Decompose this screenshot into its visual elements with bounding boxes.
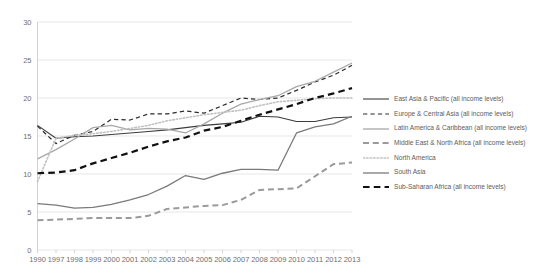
legend-item-6[interactable]: Sub-Saharan Africa (all income levels) — [363, 180, 545, 195]
x-axis-tick-label: 2006 — [214, 255, 231, 264]
legend-item-5[interactable]: South Asia — [363, 165, 545, 180]
x-axis-tick-label: 1998 — [66, 255, 83, 264]
x-axis-tick-label: 1999 — [85, 255, 102, 264]
y-axis-tick-label: 25 — [23, 56, 31, 65]
legend-item-label: Europe & Central Asia (all income levels… — [394, 111, 513, 118]
x-axis-tick-label: 2011 — [307, 255, 323, 264]
legend-item-2[interactable]: Latin America & Caribbean (all income le… — [363, 121, 545, 136]
legend-item-1[interactable]: Europe & Central Asia (all income levels… — [363, 107, 545, 122]
legend-item-0[interactable]: East Asia & Pacific (all income levels) — [363, 92, 545, 107]
y-axis-tick-label: 5 — [27, 208, 31, 217]
legend-item-label: Sub-Saharan Africa (all income levels) — [394, 184, 506, 191]
line-chart: 0510152025301990199719981999200020012002… — [0, 0, 545, 279]
legend-line-swatch-icon — [363, 108, 389, 120]
y-axis-tick-label: 20 — [23, 94, 31, 103]
legend-line-swatch-icon — [363, 137, 389, 149]
x-axis-tick-label: 2007 — [233, 255, 250, 264]
series-line-2 — [38, 63, 353, 159]
x-axis-tick-label: 2010 — [288, 255, 305, 264]
x-axis-tick-label: 2001 — [122, 255, 139, 264]
legend-line-swatch-icon — [363, 123, 389, 135]
legend-line-swatch-icon — [363, 93, 389, 105]
legend-item-label: East Asia & Pacific (all income levels) — [394, 96, 504, 103]
legend-item-3[interactable]: Middle East & North Africa (all income l… — [363, 136, 545, 151]
legend-item-label: Middle East & North Africa (all income l… — [394, 140, 526, 147]
legend-line-swatch-icon — [363, 152, 389, 164]
legend-line-swatch-icon — [363, 167, 389, 179]
series-line-1 — [38, 65, 353, 143]
x-axis-tick-label: 2000 — [103, 255, 120, 264]
x-axis-tick-label: 2013 — [344, 255, 361, 264]
y-axis-tick-label: 30 — [23, 18, 31, 27]
x-axis-tick-label: 2008 — [251, 255, 268, 264]
y-axis-tick-label: 15 — [23, 132, 31, 141]
y-axis-tick-label: 10 — [23, 170, 31, 179]
chart-legend: East Asia & Pacific (all income levels)E… — [363, 92, 545, 195]
series-line-4 — [38, 98, 353, 182]
legend-line-swatch-icon — [363, 181, 389, 193]
x-axis-tick-label: 2003 — [159, 255, 176, 264]
x-axis-tick-label: 2002 — [140, 255, 157, 264]
x-axis-tick-label: 2009 — [270, 255, 287, 264]
x-axis-tick-label: 1997 — [48, 255, 65, 264]
x-axis-tick-label: 1990 — [29, 255, 46, 264]
series-line-5 — [38, 116, 353, 208]
legend-item-label: Latin America & Caribbean (all income le… — [394, 125, 527, 132]
x-axis-tick-label: 2012 — [325, 255, 342, 264]
legend-item-label: North America — [394, 155, 436, 162]
legend-item-4[interactable]: North America — [363, 151, 545, 166]
x-axis-tick-label: 2004 — [177, 255, 194, 264]
legend-item-label: South Asia — [394, 169, 426, 176]
y-axis-tick-label: 0 — [27, 246, 31, 255]
x-axis-tick-label: 2005 — [196, 255, 213, 264]
